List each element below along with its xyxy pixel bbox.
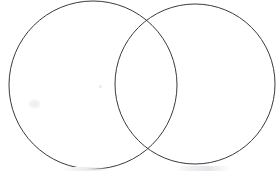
diagram-background [0,0,276,176]
venn-diagram-page [0,0,276,176]
venn-diagram-canvas [0,0,276,176]
